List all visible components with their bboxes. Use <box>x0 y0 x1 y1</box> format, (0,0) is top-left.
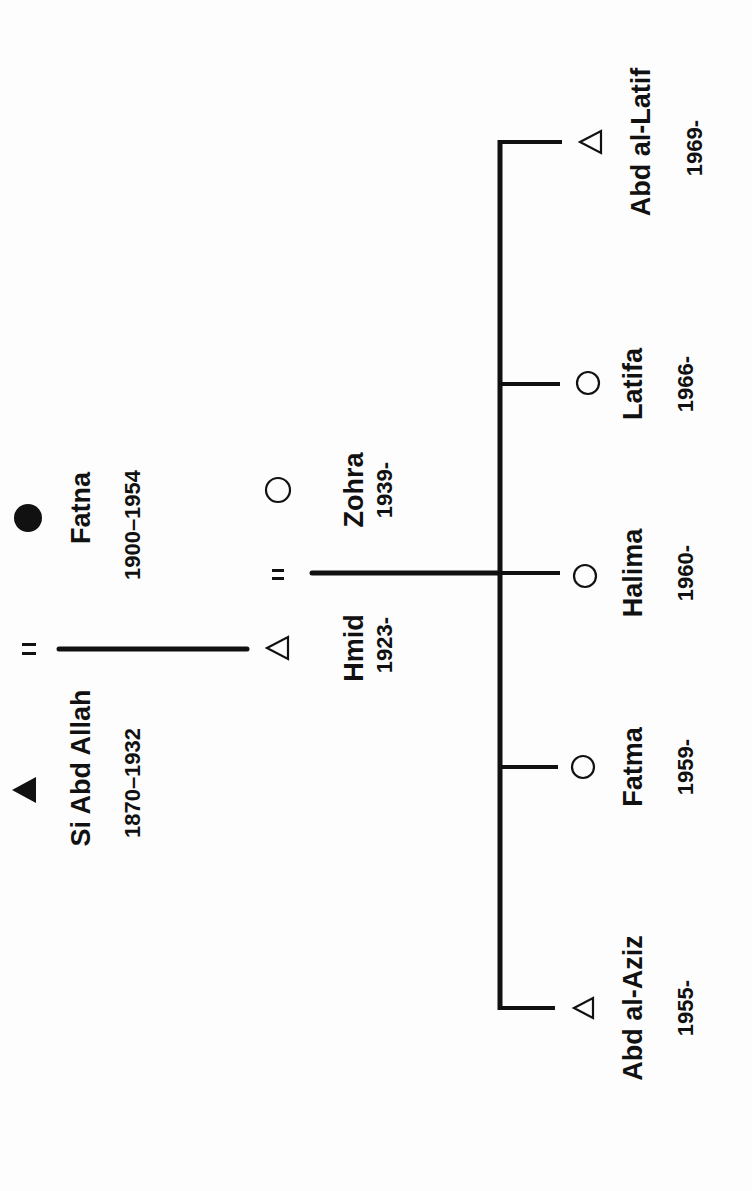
person-name-si-abd-allah: Si Abd Allah <box>66 689 96 846</box>
open-circle-icon <box>572 756 594 778</box>
person-dates-halima: 1960- <box>673 545 698 601</box>
person-name-abd-al-aziz: Abd al-Aziz <box>618 935 648 1081</box>
open-circle-icon <box>266 478 290 502</box>
open-circle-icon <box>574 565 596 587</box>
open-triangle-icon <box>580 131 601 153</box>
person-name-abd-al-latif: Abd al-Latif <box>626 67 656 216</box>
person-name-fatma: Fatma <box>618 726 648 807</box>
person-name-fatna: Fatna <box>66 471 96 544</box>
person-dates-abd-al-aziz: 1955- <box>673 980 698 1036</box>
person-name-hmid: Hmid <box>339 614 369 682</box>
person-dates-hmid: 1923- <box>372 617 397 673</box>
filled-circle-icon <box>14 504 42 532</box>
open-triangle-icon <box>574 998 593 1018</box>
person-dates-abd-al-latif: 1969- <box>682 120 707 176</box>
marriage-equals-icon <box>272 569 284 580</box>
person-dates-zohra: 1939- <box>372 462 397 518</box>
person-name-latifa: Latifa <box>618 347 648 420</box>
person-dates-fatna: 1900–1954 <box>120 469 145 580</box>
open-circle-icon <box>577 372 599 394</box>
person-name-zohra: Zohra <box>339 452 369 528</box>
person-dates-latifa: 1966- <box>673 356 698 412</box>
kinship-diagram: Si Abd Allah 1870–1932 Fatna 1900–1954 H… <box>0 0 752 1191</box>
person-dates-fatma: 1959- <box>673 739 698 795</box>
filled-triangle-icon <box>12 777 36 803</box>
marriage-equals-icon <box>22 643 36 655</box>
person-dates-si-abd-allah: 1870–1932 <box>120 728 145 838</box>
person-name-halima: Halima <box>618 528 648 618</box>
open-triangle-icon <box>267 637 288 659</box>
